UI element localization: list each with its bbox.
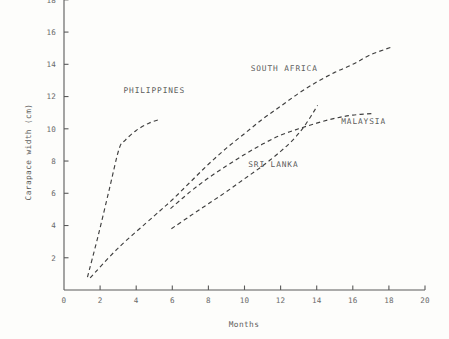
y-axis-title: Carapace width (cm) <box>24 104 33 201</box>
series-line-south-africa <box>90 47 391 278</box>
series-label-malaysia: MALAYSIA <box>341 117 386 126</box>
y-tick-label: 18 <box>46 0 56 5</box>
x-axis-tick-labels: 02468101214161820 <box>62 296 430 305</box>
y-tick-label: 16 <box>46 28 56 37</box>
series-annotations: PHILIPPINESSOUTH AFRICAMALAYSIASRI LANKA <box>123 64 386 170</box>
x-tick-label: 14 <box>312 296 322 305</box>
y-tick-label: 6 <box>51 189 56 198</box>
y-tick-label: 4 <box>51 221 56 230</box>
series-label-philippines: PHILIPPINES <box>123 86 185 95</box>
y-tick-label: 12 <box>46 92 56 101</box>
series-label-south-africa: SOUTH AFRICA <box>251 64 318 73</box>
x-axis-title: Months <box>229 320 260 329</box>
chart-axes <box>64 0 425 290</box>
growth-line-chart: 02468101214161820 24681012141618 PHILIPP… <box>0 0 449 339</box>
x-tick-label: 4 <box>134 296 139 305</box>
y-tick-label: 2 <box>51 254 56 263</box>
y-tick-label: 10 <box>46 125 56 134</box>
y-tick-label: 8 <box>51 157 56 166</box>
x-tick-label: 0 <box>62 296 67 305</box>
x-tick-label: 8 <box>206 296 211 305</box>
x-tick-label: 6 <box>170 296 175 305</box>
x-tick-label: 12 <box>276 296 286 305</box>
x-tick-label: 18 <box>384 296 394 305</box>
chart-page: 02468101214161820 24681012141618 PHILIPP… <box>0 0 449 339</box>
x-tick-label: 16 <box>348 296 358 305</box>
y-tick-label: 14 <box>46 60 56 69</box>
y-axis-tick-labels: 24681012141618 <box>46 0 56 263</box>
axis-ticks <box>64 0 425 290</box>
x-tick-label: 2 <box>98 296 103 305</box>
series-label-sri-lanka: SRI LANKA <box>248 160 298 169</box>
x-tick-label: 20 <box>420 296 430 305</box>
series-lines <box>87 47 390 278</box>
series-line-philippines <box>87 119 160 277</box>
x-tick-label: 10 <box>240 296 250 305</box>
